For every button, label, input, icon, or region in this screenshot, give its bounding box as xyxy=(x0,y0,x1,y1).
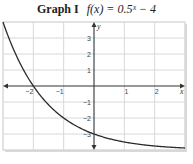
x-tick-label: 1 xyxy=(124,88,128,95)
y-tick-label: −2 xyxy=(83,115,91,122)
graph-plot: −2−112321−1−2−3yx xyxy=(0,0,193,164)
plot-shadow xyxy=(3,22,187,152)
y-tick-label: −1 xyxy=(83,99,91,106)
y-tick-label: 2 xyxy=(87,51,91,58)
x-axis-label: x xyxy=(179,87,184,96)
x-tick-label: 2 xyxy=(155,88,159,95)
y-axis-label: y xyxy=(96,22,101,31)
y-tick-label: 3 xyxy=(87,35,91,42)
y-tick-label: 1 xyxy=(87,67,91,74)
x-tick-label: −1 xyxy=(56,88,64,95)
x-tick-label: −2 xyxy=(25,88,33,95)
